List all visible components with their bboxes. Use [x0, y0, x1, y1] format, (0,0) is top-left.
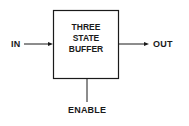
block-label-line-2: STATE — [54, 33, 118, 44]
output-arrowhead-icon — [144, 42, 149, 46]
output-label: OUT — [153, 40, 173, 49]
block-label: THREE STATE BUFFER — [54, 22, 118, 55]
block-label-line-3: BUFFER — [54, 44, 118, 55]
enable-label: ENABLE — [68, 106, 106, 115]
input-arrowhead-icon — [48, 42, 53, 46]
block-label-line-1: THREE — [54, 22, 118, 33]
input-label: IN — [11, 40, 20, 49]
